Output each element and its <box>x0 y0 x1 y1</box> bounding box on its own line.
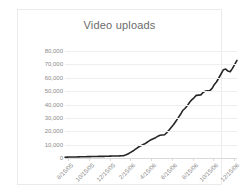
y-axis-tick-label: 70,000 <box>21 61 63 67</box>
y-axis-tick-label: 20,000 <box>21 128 63 134</box>
y-axis-tick-label: 80,000 <box>21 48 63 54</box>
y-axis-tick-label: 50,000 <box>21 88 63 94</box>
x-axis-tick-mark <box>89 159 90 161</box>
gridline <box>65 51 237 52</box>
gridline <box>65 64 237 65</box>
x-axis-tick-mark <box>110 159 111 161</box>
gridline <box>65 91 237 92</box>
x-axis-tick-mark <box>213 159 214 161</box>
x-axis-tick-mark <box>193 159 194 161</box>
y-axis-labels: 80,00070,00060,00050,00040,00030,00020,0… <box>18 51 63 158</box>
y-axis-tick-label: 30,000 <box>21 115 63 121</box>
y-axis-tick-label: 0 <box>21 155 63 161</box>
x-axis-labels: 8/15/0510/15/0512/15/052/15/064/15/066/1… <box>65 159 237 195</box>
y-axis-tick-label: 60,000 <box>21 75 63 81</box>
gridline <box>65 105 237 106</box>
x-axis-tick-mark <box>151 159 152 161</box>
gridline <box>65 78 237 79</box>
x-axis-tick-mark <box>234 159 235 161</box>
gridline <box>65 131 237 132</box>
y-axis-tick-label: 40,000 <box>21 102 63 108</box>
chart-title: Video uploads <box>18 19 221 31</box>
chart-frame: Video uploads 80,00070,00060,00050,00040… <box>17 9 222 185</box>
x-axis-tick-mark <box>130 159 131 161</box>
plot-area <box>65 51 237 158</box>
y-axis-tick-label: 10,000 <box>21 142 63 148</box>
gridline <box>65 145 237 146</box>
gridline <box>65 118 237 119</box>
x-axis-tick-mark <box>68 159 69 161</box>
x-axis-tick-mark <box>172 159 173 161</box>
series-polyline <box>65 60 237 157</box>
